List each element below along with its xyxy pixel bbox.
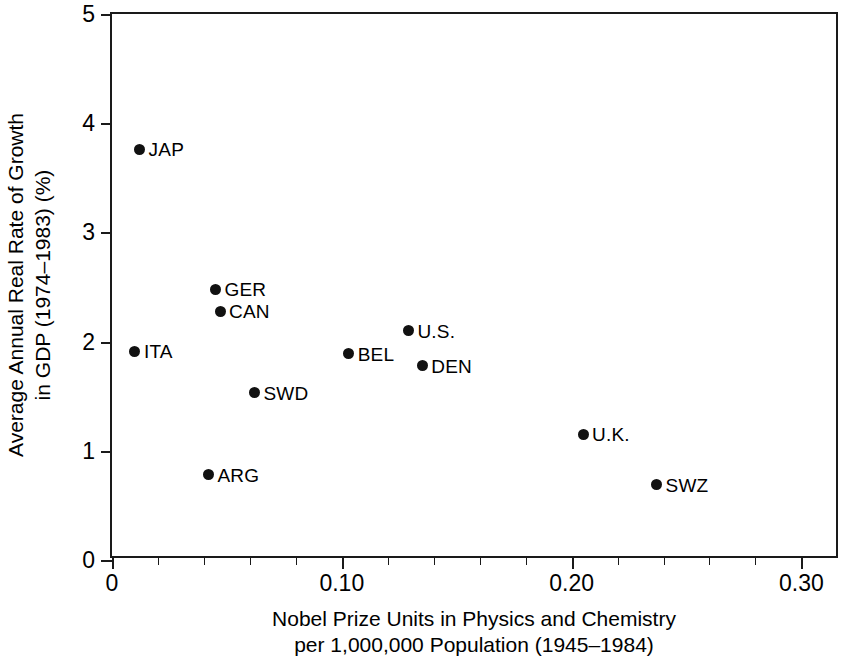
x-axis-title-line2: per 1,000,000 Population (1945–1984) [110,632,838,658]
data-point-label: U.S. [417,321,455,340]
y-tick-mark [101,560,112,562]
x-tick-mark-minor [296,556,297,565]
data-point [134,144,145,155]
data-point-label: BEL [358,344,395,363]
data-point [210,284,221,295]
x-tick-mark-minor [618,556,619,565]
x-tick-label: 0 [106,572,119,595]
data-point [203,469,214,480]
x-tick-mark [342,556,344,569]
x-tick-mark [572,556,574,569]
x-axis-title: Nobel Prize Units in Physics and Chemist… [110,606,838,658]
x-tick-mark-minor [388,556,389,565]
y-tick-mark [101,451,112,453]
y-tick-label: 0 [82,549,95,572]
data-point-label: ARG [218,465,260,484]
x-tick-mark-minor [250,556,251,565]
y-tick-mark [101,14,112,16]
x-tick-label: 0.20 [549,572,594,595]
y-tick-mark [101,232,112,234]
y-tick-label: 4 [82,112,95,135]
data-point-label: CAN [229,302,270,321]
data-point-label: GER [224,280,266,299]
y-tick-mark [101,342,112,344]
data-point [129,346,140,357]
data-point-label: DEN [431,356,472,375]
data-point [417,360,428,371]
data-point-label: U.K. [592,425,630,444]
x-tick-mark-minor [204,556,205,565]
x-tick-label: 0.10 [319,572,364,595]
y-axis-title: Average Annual Real Rate of Growth in GD… [0,12,58,558]
x-tick-mark-minor [526,556,527,565]
y-tick-label: 3 [82,221,95,244]
x-tick-mark-minor [158,556,159,565]
y-tick-mark [101,123,112,125]
x-tick-mark-minor [434,556,435,565]
data-point-label: JAP [149,140,184,159]
data-point [215,306,226,317]
x-tick-mark [112,556,114,569]
plot-area: 012345 00.100.200.30 JAPGERCANU.S.ITABEL… [110,12,838,558]
y-tick-label: 2 [82,330,95,353]
x-axis-title-line1: Nobel Prize Units in Physics and Chemist… [110,606,838,632]
data-point [249,387,260,398]
data-point-label: SWZ [666,475,709,494]
y-axis-title-line1: Average Annual Real Rate of Growth [2,113,29,457]
data-point-label: SWD [263,383,308,402]
x-tick-label: 0.30 [779,572,824,595]
x-tick-mark-minor [664,556,665,565]
x-tick-mark-minor [480,556,481,565]
scatter-chart-figure: Average Annual Real Rate of Growth in GD… [0,0,853,666]
x-tick-mark-minor [755,556,756,565]
data-point-label: ITA [144,342,173,361]
y-tick-label: 5 [82,3,95,26]
data-point [403,325,414,336]
x-tick-mark-minor [709,556,710,565]
y-axis-title-line2: in GDP (1974–1983) (%) [29,113,56,457]
data-point [651,479,662,490]
x-tick-mark [801,556,803,569]
data-point [578,429,589,440]
data-point [343,348,354,359]
y-tick-label: 1 [82,439,95,462]
